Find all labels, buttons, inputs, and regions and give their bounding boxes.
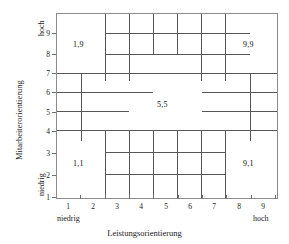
y-axis-low-label: niedrig	[38, 173, 46, 196]
x-tickmark-8	[251, 195, 252, 199]
x-tick-label-2: 2	[87, 203, 99, 211]
y-tickmark-5	[52, 112, 56, 113]
x-tickmark-6	[202, 195, 203, 199]
x-tick-label-4: 4	[135, 203, 147, 211]
x-tick-label-7: 7	[208, 203, 220, 211]
y-tick-label-8: 8	[40, 51, 50, 59]
y-tick-label-5: 5	[40, 109, 50, 117]
y-tick-label-4: 4	[40, 128, 50, 136]
cell-label-5-5: 5,5	[157, 101, 168, 109]
x-axis-high-label: hoch	[253, 215, 269, 223]
x-tickmark-7	[226, 195, 227, 199]
y-tickmark-1	[52, 197, 56, 198]
y-tickmark-4	[52, 131, 56, 132]
x-tick-label-1: 1	[62, 203, 74, 211]
y-tickmark-8	[52, 54, 56, 55]
x-tickmark-9	[275, 195, 276, 199]
y-tick-label-3: 3	[40, 150, 50, 158]
x-tickmark-2	[105, 195, 106, 199]
x-axis-low-label: niedrig	[57, 215, 80, 223]
y-tickmark-2	[52, 175, 56, 176]
x-tick-label-8: 8	[233, 203, 245, 211]
x-tick-label-9: 9	[257, 203, 269, 211]
y-tick-label-6: 6	[40, 89, 50, 97]
x-tick-label-6: 6	[184, 203, 196, 211]
managerial-grid-figure: 1,9 9,9 5,5 1,1 9,1 9 8 7 6 5 4 3 2 1 1 …	[0, 0, 289, 244]
cell-label-9-1: 9,1	[243, 160, 254, 168]
x-tickmark-3	[129, 195, 130, 199]
y-tick-label-7: 7	[40, 70, 50, 78]
x-tick-label-5: 5	[160, 203, 172, 211]
cell-label-1-1: 1,1	[73, 160, 84, 168]
x-tickmark-4	[153, 195, 154, 199]
x-tickmark-1	[80, 195, 81, 199]
x-tickmark-5	[178, 195, 179, 199]
cell-label-1-9: 1,9	[73, 41, 84, 49]
y-tickmark-6	[52, 92, 56, 93]
y-axis-high-label: hoch	[38, 20, 46, 36]
cell-label-9-9: 9,9	[243, 41, 254, 49]
plot-area: 1,9 9,9 5,5 1,1 9,1	[56, 13, 278, 199]
y-tickmark-3	[52, 153, 56, 154]
x-tick-label-3: 3	[111, 203, 123, 211]
y-tickmark-9	[52, 33, 56, 34]
y-tickmark-7	[52, 73, 56, 74]
x-axis-title: Leistungsorientierung	[0, 228, 289, 238]
y-axis-title: Mitarbeiterorientierung	[14, 80, 24, 160]
